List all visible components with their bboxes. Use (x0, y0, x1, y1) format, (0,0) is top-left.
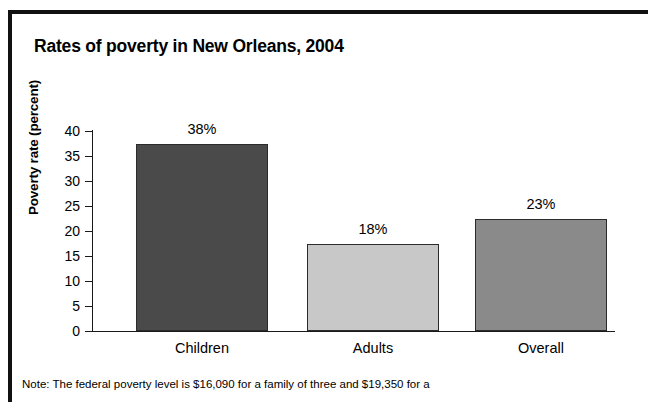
y-axis-tick-mark (85, 206, 93, 207)
y-axis-tick-label: 5 (52, 299, 80, 313)
category-label-overall: Overall (475, 340, 607, 356)
y-axis-tick-mark (85, 181, 93, 182)
category-label-adults: Adults (307, 340, 439, 356)
category-label-children: Children (136, 340, 268, 356)
y-axis-title: Poverty rate (percent) (26, 53, 41, 243)
y-axis-tick-mark (85, 231, 93, 232)
bar-value-label: 23% (475, 197, 607, 212)
bar-overall (475, 219, 607, 332)
y-axis-tick-mark (85, 256, 93, 257)
bar-children (136, 144, 268, 332)
y-axis-tick-label: 20 (52, 224, 80, 238)
x-axis-line (92, 331, 615, 332)
y-axis-tick-label: 10 (52, 274, 80, 288)
y-axis-tick-label: 35 (52, 149, 80, 163)
y-axis-tick-label: 25 (52, 199, 80, 213)
y-axis-tick-mark (85, 156, 93, 157)
y-axis-tick-mark (85, 131, 93, 132)
y-axis-tick-mark (85, 281, 93, 282)
y-axis-tick-mark (85, 306, 93, 307)
bar-value-label: 18% (307, 222, 439, 237)
y-axis-tick-label: 30 (52, 174, 80, 188)
bar-adults (307, 244, 439, 332)
y-axis-tick-label: 0 (52, 324, 80, 338)
y-axis-tick-mark (85, 331, 93, 332)
chart-note: Note: The federal poverty level is $16,0… (22, 378, 622, 391)
y-axis-tick-label: 40 (52, 124, 80, 138)
bar-value-label: 38% (136, 122, 268, 137)
y-axis-tick-label: 15 (52, 249, 80, 263)
